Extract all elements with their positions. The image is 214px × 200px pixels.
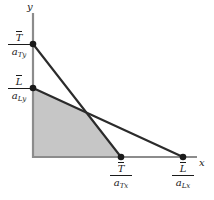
label-T-over-aTx: T aTx: [110, 163, 132, 188]
label-L-over-aLx-denominator-sub: Lx: [182, 182, 191, 190]
marker-T-x-intercept: [118, 154, 125, 161]
label-L-over-aLy: L aLy: [8, 76, 30, 101]
label-T-over-aTy: T aTy: [8, 32, 30, 57]
label-L-over-aLx-numerator: L: [180, 163, 187, 175]
label-T-over-aTy-denominator-sub: Ty: [18, 51, 27, 59]
label-T-over-aTx-numerator: T: [118, 163, 125, 175]
label-L-over-aLx: L aLx: [172, 163, 194, 188]
marker-T-y-intercept: [30, 41, 37, 48]
feasible-region-figure: y x T aTy L aLy T aTx L aLx: [0, 0, 214, 200]
marker-L-y-intercept: [30, 85, 37, 92]
label-L-over-aLy-denominator-sub: Ly: [18, 95, 26, 103]
label-T-over-aTy-denominator-base: a: [12, 46, 18, 57]
label-T-over-aTy-numerator: T: [16, 32, 23, 44]
label-L-over-aLy-denominator-base: a: [12, 90, 18, 101]
label-T-over-aTx-denominator-sub: Tx: [120, 182, 129, 190]
label-L-over-aLy-numerator: L: [16, 76, 23, 88]
label-T-over-aTx-denominator-base: a: [114, 177, 120, 188]
label-L-over-aLx-denominator-base: a: [176, 177, 182, 188]
y-axis-label: y: [27, 2, 33, 12]
x-axis-label: x: [199, 158, 205, 168]
marker-L-x-intercept: [180, 154, 187, 161]
